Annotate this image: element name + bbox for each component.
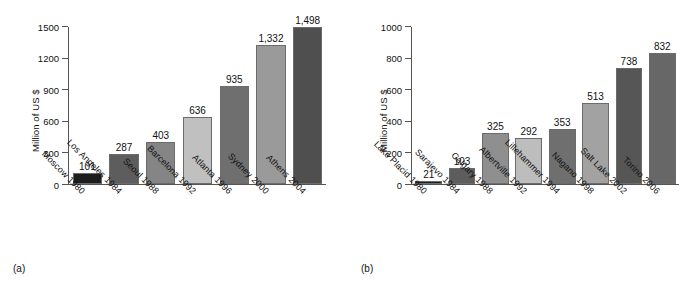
bar-value-label: 403 (152, 130, 169, 141)
x-label-slot: Nagano 1998 (579, 185, 612, 255)
x-label-slot: Barcelona 1992 (179, 185, 216, 255)
y-tick: 900 (62, 89, 68, 90)
y-tick: 600 (62, 121, 68, 122)
y-tick-label: 600 (43, 116, 59, 127)
x-label-slot: Lillehammer 1994 (546, 185, 579, 255)
x-label-slot: Lake Placid 1980 (412, 185, 445, 255)
x-axis-labels-a: Moscow 1980Los Angeles 1984Seoul 1988Bar… (69, 185, 326, 255)
y-tick: 800 (405, 58, 411, 59)
bar[interactable]: 1,498 (293, 27, 322, 184)
x-label-slot: Seoul 1988 (142, 185, 179, 255)
plot-area-a: 030060090012001500 1012874036369351,3321… (68, 27, 326, 185)
bar-value-label: 1,332 (258, 33, 283, 44)
bar-value-label: 832 (654, 41, 671, 52)
bar-value-label: 513 (587, 91, 604, 102)
plot-area-b: 02004006008001000 2110332529235351373883… (411, 27, 679, 185)
y-tick: 400 (405, 121, 411, 122)
x-label-slot: Torino 2006 (646, 185, 679, 255)
y-axis-title-a: Million of US $ (30, 89, 41, 152)
y-tick-label: 400 (386, 116, 402, 127)
bar-value-label: 353 (554, 117, 571, 128)
y-tick-label: 0 (54, 179, 59, 190)
panel-caption-a: (a) (13, 263, 25, 274)
x-label-slot: Salt Lake 2002 (612, 185, 645, 255)
y-tick-label: 900 (43, 84, 59, 95)
y-tick: 1500 (62, 26, 68, 27)
x-label-slot: Albertville 1992 (512, 185, 545, 255)
y-tick: 200 (405, 152, 411, 153)
x-label-slot: Atlanta 1996 (216, 185, 253, 255)
y-tick-label: 1200 (38, 53, 59, 64)
bar[interactable]: 832 (649, 53, 676, 184)
y-tick: 1000 (405, 26, 411, 27)
bar-value-label: 738 (621, 56, 638, 67)
panel-caption-b: (b) (361, 263, 373, 274)
bar-value-label: 935 (226, 74, 243, 85)
bar-value-label: 1,498 (295, 15, 320, 26)
x-label-slot: Calgary 1988 (479, 185, 512, 255)
y-tick-label: 0 (397, 179, 402, 190)
y-tick-label: 800 (386, 53, 402, 64)
x-label-slot: Athens 2004 (289, 185, 326, 255)
y-tick: 600 (405, 89, 411, 90)
chart-panel-a: Million of US $ 030060090012001500 10128… (0, 0, 350, 289)
bar-slot: 1,498 (289, 27, 326, 184)
x-axis-labels-b: Lake Placid 1980Sarajevo 1984Calgary 198… (412, 185, 679, 255)
bar-value-label: 325 (487, 121, 504, 132)
y-tick-label: 600 (386, 84, 402, 95)
bar-slot: 832 (646, 27, 679, 184)
figure-olympic-broadcasting-revenues: Million of US $ 030060090012001500 10128… (0, 0, 700, 289)
y-tick: 300 (62, 152, 68, 153)
x-label-slot: Los Angeles 1984 (106, 185, 143, 255)
bar-value-label: 292 (520, 126, 537, 137)
x-label-slot: Sarajevo 1984 (445, 185, 478, 255)
x-label-slot: Sydney 2000 (253, 185, 290, 255)
bar-value-label: 636 (189, 105, 206, 116)
y-tick: 1200 (62, 58, 68, 59)
x-label-slot: Moscow 1980 (69, 185, 106, 255)
y-tick-label: 1500 (38, 21, 59, 32)
y-tick-label: 1000 (381, 21, 402, 32)
bar-value-label: 287 (116, 142, 133, 153)
chart-panel-b: Million of US $ 02004006008001000 211033… (350, 0, 700, 289)
